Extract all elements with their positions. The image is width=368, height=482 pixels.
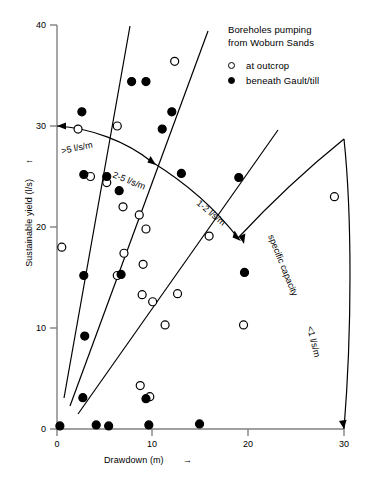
y-axis-title: Sustainable yield (l/s) ↑ [24, 128, 34, 298]
legend-title-line1: Boreholes pumping [228, 24, 368, 37]
x-axis-ticks [57, 429, 344, 436]
x-axis-tick-labels: 0 10 20 30 [54, 439, 349, 449]
data-point [135, 211, 143, 219]
x-tick-label: 30 [339, 439, 349, 449]
data-point [205, 232, 213, 240]
data-point [119, 203, 127, 211]
label-lt1: <1 l/s/m [305, 325, 322, 358]
data-point [56, 422, 64, 430]
y-tick-label: 0 [41, 424, 46, 434]
filled-circle-icon [228, 77, 241, 84]
data-point [168, 108, 176, 116]
x-tick-label: 0 [54, 439, 59, 449]
open-circle-icon [228, 62, 241, 69]
x-axis-title-text: Drawdown (m) [104, 455, 164, 465]
data-point [113, 122, 121, 130]
x-tick-label: 10 [147, 439, 157, 449]
y-tick-label: 10 [36, 323, 46, 333]
data-point [92, 421, 100, 429]
series-at-outcrop-points [58, 57, 339, 400]
legend-item-label: beneath Gault/till [246, 75, 319, 86]
legend-item-at-outcrop: at outcrop [228, 58, 368, 73]
data-point [196, 420, 204, 428]
legend-item-label: at outcrop [246, 60, 289, 71]
contour-arc-far [344, 139, 350, 429]
data-point [79, 394, 87, 402]
data-point [142, 78, 150, 86]
boundary-line-gt5 [64, 26, 130, 398]
y-axis-tick-labels: 40 30 20 10 0 [36, 20, 46, 434]
label-gt5: >5 l/s/m [60, 140, 93, 156]
y-axis-ticks [50, 25, 57, 429]
label-1-2: 1-2 l/s/m [195, 198, 228, 228]
contour-arc-outer [238, 139, 344, 238]
legend-title-line2: from Woburn Sands [228, 37, 368, 50]
legend-item-beneath-gault: beneath Gault/till [228, 73, 368, 88]
data-point [74, 125, 82, 133]
legend-title: Boreholes pumping from Woburn Sands [228, 24, 368, 49]
contour-arc-mid [152, 162, 238, 238]
x-tick-label: 20 [243, 439, 253, 449]
data-point [240, 321, 248, 329]
x-axis-arrow-icon: → [183, 455, 192, 465]
data-point [136, 382, 144, 390]
data-point [177, 169, 185, 177]
data-point [78, 108, 86, 116]
data-point [158, 125, 166, 133]
label-specific-capacity: specific capacity [266, 233, 300, 298]
data-point [142, 395, 150, 403]
y-tick-label: 30 [36, 121, 46, 131]
data-point [117, 270, 125, 278]
data-point [145, 421, 153, 429]
data-point [138, 291, 146, 299]
y-axis-arrow-icon: ↑ [24, 159, 34, 164]
data-point [241, 268, 249, 276]
data-point [235, 174, 243, 182]
data-point [174, 290, 182, 298]
data-point [105, 422, 113, 430]
legend: Boreholes pumping from Woburn Sands at o… [228, 24, 368, 88]
data-point [128, 78, 136, 86]
data-point [115, 187, 123, 195]
x-axis-title: Drawdown (m) → [104, 455, 192, 465]
data-point [139, 260, 147, 268]
data-point [161, 321, 169, 329]
data-point [149, 298, 157, 306]
data-point [58, 243, 66, 251]
data-point [330, 193, 338, 201]
data-point [120, 249, 128, 257]
y-tick-label: 20 [36, 222, 46, 232]
y-tick-label: 40 [36, 20, 46, 30]
data-point [142, 225, 150, 233]
specific-capacity-contours [57, 126, 350, 429]
data-point [103, 173, 111, 181]
y-axis-title-text: Sustainable yield (l/s) [24, 179, 34, 267]
data-point [80, 271, 88, 279]
data-point [171, 57, 179, 65]
data-point [80, 170, 88, 178]
data-point [81, 332, 89, 340]
